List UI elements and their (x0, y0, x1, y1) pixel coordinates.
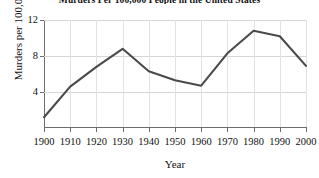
y-tick-label-12: 12 (28, 15, 39, 25)
series-line-murders (44, 31, 306, 117)
x-tick-label-1990: 1990 (269, 136, 290, 147)
x-tick-label-1950: 1950 (165, 136, 186, 147)
gridline-x-2000 (306, 20, 307, 128)
y-tick-label-4: 4 (33, 87, 38, 97)
chart-title: Murders Per 100,000 People in the United… (0, 0, 319, 4)
series-line-chart (44, 20, 306, 128)
x-tick-label-1920: 1920 (86, 136, 107, 147)
y-axis-label: Murders per 100,000 (12, 0, 24, 94)
x-tick-label-1900: 1900 (34, 136, 55, 147)
x-tick-label-1960: 1960 (191, 136, 212, 147)
y-tick-label-8: 8 (33, 51, 38, 61)
x-tick-label-1970: 1970 (217, 136, 238, 147)
x-axis-label: Year (44, 158, 306, 170)
x-tick-label-2000: 2000 (296, 136, 317, 147)
plot-area: 4812 19001910192019301940195019601970198… (44, 20, 306, 128)
x-tick-label-1980: 1980 (243, 136, 264, 147)
x-tick-label-1940: 1940 (138, 136, 159, 147)
chart-figure: Murders Per 100,000 People in the United… (0, 0, 319, 178)
x-tick-mark-2000 (306, 127, 307, 132)
x-tick-label-1930: 1930 (112, 136, 133, 147)
x-tick-label-1910: 1910 (60, 136, 81, 147)
